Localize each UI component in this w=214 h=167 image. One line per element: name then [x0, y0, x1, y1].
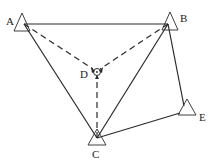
edge-a-c: [24, 24, 97, 138]
edge-b-d: [100, 24, 168, 69]
label-a: A: [6, 15, 14, 27]
edge-c-e: [97, 113, 180, 138]
label-e: E: [199, 111, 206, 123]
point-d-icon: [91, 67, 103, 79]
triangle-e-icon: [178, 99, 196, 115]
network-diagram: A B C D E: [0, 0, 214, 167]
label-d: D: [80, 68, 88, 80]
label-b: B: [180, 12, 187, 24]
edge-b-e: [168, 24, 184, 106]
edge-a-d: [24, 24, 93, 69]
triangle-a-icon: [14, 13, 30, 31]
triangle-b-icon: [162, 12, 178, 30]
label-c: C: [92, 148, 99, 160]
edge-b-c: [97, 24, 168, 138]
